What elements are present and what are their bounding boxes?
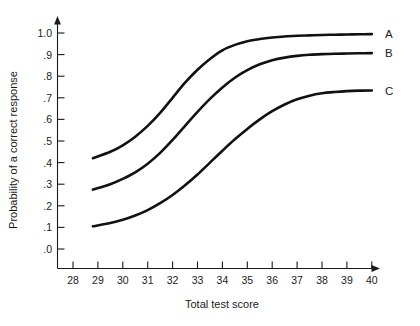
x-tick-label: 29 [92,274,104,286]
y-axis [54,16,61,269]
y-tick-label: .0 [43,243,52,255]
y-tick-marks [58,33,65,249]
x-tick-marks [73,262,372,269]
series-label-c: C [385,85,393,97]
curve-series-c [93,90,372,226]
x-tick-label: 34 [217,274,229,286]
x-tick-label: 39 [341,274,353,286]
x-axis-title: Total test score [185,298,259,310]
y-axis-arrow-icon [54,16,61,25]
x-axis [58,265,381,272]
x-tick-label: 28 [67,274,79,286]
x-tick-label: 36 [266,274,278,286]
x-tick-label: 30 [117,274,129,286]
y-tick-label: .5 [43,135,52,147]
y-tick-label: .9 [43,49,52,61]
chart-container: 1.0 .9 .8 .7 .6 .5 .4 .3 .2 .1 .0 [0,0,420,326]
x-tick-label: 32 [167,274,179,286]
y-tick-label: .1 [43,221,52,233]
x-tick-label: 33 [192,274,204,286]
y-tick-label: 1.0 [37,27,52,39]
x-tick-label: 35 [241,274,253,286]
y-tick-label: .8 [43,70,52,82]
x-axis-arrow-icon [372,265,381,272]
x-tick-labels: 28 29 30 31 32 33 34 35 36 37 38 39 40 [67,274,378,286]
y-tick-label: .3 [43,178,52,190]
y-tick-label: .7 [43,92,52,104]
series-label-a: A [385,28,393,40]
x-tick-label: 37 [291,274,303,286]
y-tick-label: .4 [43,157,52,169]
series-label-b: B [385,47,393,59]
x-tick-label: 40 [366,274,378,286]
curve-series-b [93,53,372,190]
y-tick-label: .6 [43,113,52,125]
item-characteristic-curve-chart: 1.0 .9 .8 .7 .6 .5 .4 .3 .2 .1 .0 [0,0,420,326]
x-tick-label: 31 [142,274,154,286]
x-tick-label: 38 [316,274,328,286]
y-axis-title: Probability of a correct response [7,71,19,229]
y-tick-label: .2 [43,200,52,212]
y-tick-labels: 1.0 .9 .8 .7 .6 .5 .4 .3 .2 .1 .0 [37,27,52,255]
